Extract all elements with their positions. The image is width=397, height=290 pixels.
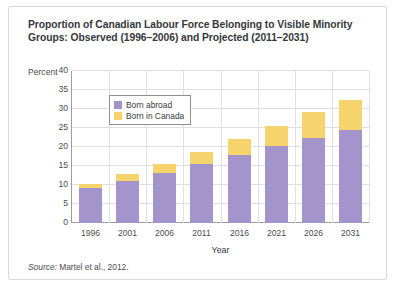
bar-2021[interactable]: 2021: [265, 71, 288, 223]
bar-2016[interactable]: 2016: [228, 71, 251, 223]
bar-segment-1996-born-abroad[interactable]: [79, 188, 102, 223]
vertical-gridline-3: [183, 71, 184, 223]
y-tick-label-5: 5: [63, 198, 68, 208]
figure-panel: Proportion of Canadian Labour Force Belo…: [8, 6, 387, 280]
x-tick-label-2031: 2031: [341, 228, 360, 238]
x-tick-label-2026: 2026: [304, 228, 323, 238]
y-tick-label-40: 40: [58, 65, 68, 75]
bar-segment-2016-born-in-canada[interactable]: [228, 139, 251, 156]
x-tick-label-2016: 2016: [230, 228, 249, 238]
x-tick-label-2011: 2011: [192, 228, 210, 238]
vertical-gridline-1: [109, 71, 110, 223]
bar-segment-2006-born-abroad[interactable]: [153, 173, 176, 223]
y-tick-label-30: 30: [58, 103, 68, 113]
bar-segment-2026-born-in-canada[interactable]: [302, 112, 325, 137]
chart-title: Proportion of Canadian Labour Force Belo…: [28, 18, 373, 44]
vertical-gridline-7: [332, 71, 333, 223]
y-tick-label-0: 0: [63, 217, 68, 227]
bar-segment-2016-born-abroad[interactable]: [228, 155, 251, 223]
bar-segment-2011-born-abroad[interactable]: [190, 164, 213, 223]
y-tick-label-20: 20: [58, 141, 68, 151]
bar-segment-2031-born-in-canada[interactable]: [339, 100, 362, 130]
vertical-gridline-2: [146, 71, 147, 223]
bar-2031[interactable]: 2031: [339, 71, 362, 223]
bar-2026[interactable]: 2026: [302, 71, 325, 223]
chart-legend: Born abroad Born in Canada: [109, 95, 191, 125]
legend-label-born-abroad: Born abroad: [126, 100, 172, 110]
source-prefix: Source:: [28, 262, 57, 272]
x-tick-label-2001: 2001: [118, 228, 137, 238]
bar-segment-1996-born-in-canada[interactable]: [79, 184, 102, 188]
x-axis-title: Year: [72, 245, 369, 255]
bar-segment-2006-born-in-canada[interactable]: [153, 164, 176, 173]
x-tick-label-2006: 2006: [155, 228, 174, 238]
bar-segment-2021-born-abroad[interactable]: [265, 146, 288, 223]
bar-2001[interactable]: 2001: [116, 71, 139, 223]
y-axis-label: Percent: [28, 67, 58, 77]
legend-label-born-in-canada: Born in Canada: [126, 111, 184, 121]
y-tick-label-25: 25: [58, 122, 68, 132]
x-tick-label-2021: 2021: [267, 228, 286, 238]
bar-1996[interactable]: 1996: [79, 71, 102, 223]
legend-swatch-born-abroad: [114, 101, 122, 109]
legend-swatch-born-in-canada: [114, 112, 122, 120]
vertical-gridline-5: [258, 71, 259, 223]
vertical-gridline-8: [369, 71, 370, 223]
plot-area: 0510152025303540 19962001200620112016202…: [72, 71, 369, 223]
bar-segment-2021-born-in-canada[interactable]: [265, 126, 288, 147]
y-tick-label-35: 35: [58, 84, 68, 94]
legend-item-born-in-canada: Born in Canada: [114, 110, 184, 121]
y-axis-line: [71, 71, 72, 223]
source-note: Source: Martel et al., 2012.: [28, 262, 129, 272]
bar-segment-2001-born-abroad[interactable]: [116, 181, 139, 223]
vertical-gridline-6: [295, 71, 296, 223]
bar-segment-2026-born-abroad[interactable]: [302, 138, 325, 224]
bar-segment-2001-born-in-canada[interactable]: [116, 174, 139, 181]
vertical-gridline-4: [221, 71, 222, 223]
y-tick-label-10: 10: [58, 179, 68, 189]
bar-2006[interactable]: 2006: [153, 71, 176, 223]
bar-2011[interactable]: 2011: [190, 71, 213, 223]
legend-item-born-abroad: Born abroad: [114, 99, 184, 110]
x-tick-label-1996: 1996: [81, 228, 100, 238]
bar-segment-2031-born-abroad[interactable]: [339, 130, 362, 223]
y-tick-label-15: 15: [58, 160, 68, 170]
source-citation: Martel et al., 2012.: [59, 262, 128, 272]
bar-segment-2011-born-in-canada[interactable]: [190, 152, 213, 165]
